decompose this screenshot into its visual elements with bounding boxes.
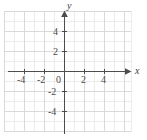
x-axis-label: x xyxy=(135,66,139,76)
x-tick-label-4: 4 xyxy=(101,75,106,85)
x-tick-label-neg4: -4 xyxy=(17,75,25,85)
x-axis-arrowhead xyxy=(125,68,132,75)
y-axis-label: y xyxy=(67,1,71,11)
y-axis xyxy=(61,11,68,135)
y-tick-label-2: 2 xyxy=(53,47,58,57)
origin-label: 0 xyxy=(56,75,61,85)
y-tick-label-4: 4 xyxy=(53,27,58,37)
x-tick-label-neg2: -2 xyxy=(37,75,45,85)
y-tick-label-neg2: -2 xyxy=(48,87,56,97)
coordinate-plane-canvas xyxy=(0,0,147,140)
coordinate-plane-figure: -4 -2 0 2 4 4 2 -2 -4 x y xyxy=(0,0,147,140)
y-tick-label-neg4: -4 xyxy=(48,107,56,117)
x-tick-label-2: 2 xyxy=(81,75,86,85)
x-axis xyxy=(8,68,132,75)
